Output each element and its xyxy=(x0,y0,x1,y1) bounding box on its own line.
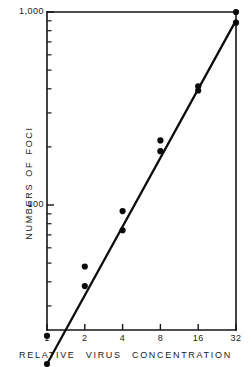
figure-chart-foci-vs-concentration: 1,000100 12481632 NUMBERS OF FOCI RELATI… xyxy=(0,0,251,367)
fitted-regression-line xyxy=(47,20,236,364)
data-point xyxy=(120,227,126,233)
x-axis-title: RELATIVE VIRUS CONCENTRATION xyxy=(0,350,251,360)
fit-line xyxy=(47,20,236,364)
y-axis-title: NUMBERS OF FOCI xyxy=(24,98,34,268)
data-point xyxy=(157,137,163,143)
y-axis-ticks xyxy=(47,12,54,306)
data-point xyxy=(157,148,163,154)
data-point xyxy=(44,361,50,367)
x-axis-ticks xyxy=(47,324,236,330)
x-tick-label: 32 xyxy=(221,334,251,343)
data-point xyxy=(233,20,239,26)
x-tick-label: 1 xyxy=(32,334,62,343)
x-tick-label: 16 xyxy=(183,334,213,343)
y-tick-label: 1,000 xyxy=(19,7,44,16)
x-tick-label: 4 xyxy=(108,334,138,343)
data-point xyxy=(195,87,201,93)
data-point xyxy=(233,9,239,15)
x-tick-label: 8 xyxy=(145,334,175,343)
data-point xyxy=(82,283,88,289)
data-points-group xyxy=(44,9,239,367)
x-tick-label: 2 xyxy=(70,334,100,343)
data-point xyxy=(82,263,88,269)
y-axis-tick-labels: 1,000100 xyxy=(0,0,44,367)
data-point xyxy=(120,208,126,214)
